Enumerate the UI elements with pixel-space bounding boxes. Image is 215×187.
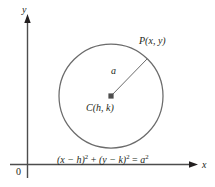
equation-mid-exponent: 2: [126, 153, 129, 160]
x-axis-label: x: [202, 160, 206, 170]
point-p-label: P(x, y): [139, 36, 166, 46]
equation-right-exponent: 2: [145, 153, 148, 160]
equation-mid-base: (y − k): [99, 154, 126, 165]
circle-equation-label: (x − h)2 + (y − k)2 = a2: [57, 155, 149, 165]
equation-left-exponent: 2: [85, 153, 88, 160]
y-axis-label: y: [22, 5, 26, 15]
circle-equation-figure: y x 0 P(x, y) C(h, k) a (x − h)2 + (y − …: [0, 0, 215, 187]
center-point-marker: [108, 93, 113, 98]
equation-equals-sign: =: [132, 154, 138, 165]
radius-label: a: [111, 66, 116, 76]
equation-left-base: (x − h): [57, 154, 85, 165]
radius-segment: [111, 59, 147, 96]
origin-label: 0: [16, 167, 21, 177]
center-point-label: C(h, k): [86, 103, 114, 113]
x-axis-arrowhead: [189, 161, 198, 167]
equation-plus-sign: +: [91, 154, 97, 165]
y-axis-arrowhead: [24, 14, 30, 23]
